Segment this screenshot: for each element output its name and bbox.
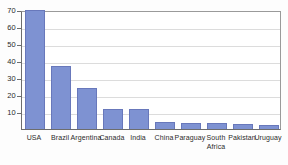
bar [207, 123, 226, 129]
y-tick-label: 70 [7, 7, 16, 15]
bar [129, 109, 148, 129]
x-tick-label-line: Africa [198, 143, 234, 152]
x-axis: USABrazilArgentinaCanadaIndiaChinaParagu… [21, 132, 281, 165]
y-tick-label: 10 [7, 109, 16, 117]
x-tick-label-line: Uruguay [250, 134, 286, 143]
bar [233, 124, 252, 129]
bar [259, 125, 278, 129]
y-tick-label: 20 [7, 92, 16, 100]
x-tick-label: Uruguay [250, 134, 286, 143]
bar [155, 122, 174, 129]
bar [25, 10, 44, 129]
bar-chart: 10203040506070 USABrazilArgentinaCanadaI… [0, 0, 288, 165]
plot-area [21, 11, 281, 130]
y-axis: 10203040506070 [0, 0, 21, 132]
bar [181, 123, 200, 129]
y-tick-label: 30 [7, 75, 16, 83]
bars-layer [22, 12, 280, 129]
y-tick-label: 50 [7, 41, 16, 49]
bar [51, 66, 70, 129]
y-tick-label: 40 [7, 58, 16, 66]
bar [77, 88, 96, 129]
bar [103, 109, 122, 129]
y-tick-label: 60 [7, 24, 16, 32]
